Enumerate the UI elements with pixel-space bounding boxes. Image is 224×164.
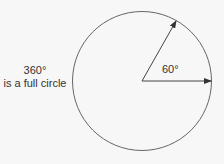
full-circle-value: 360° [0,64,70,77]
angle-label: 60° [162,63,179,76]
full-circle-caption: is a full circle [0,77,70,90]
full-circle-label: 360° is a full circle [0,64,70,90]
